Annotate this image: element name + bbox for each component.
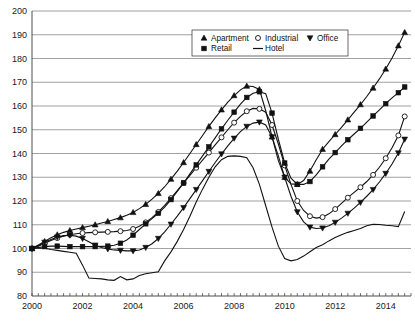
x-axis-label-2010: 2010 xyxy=(275,301,295,311)
data-point-marker xyxy=(308,179,313,184)
chart-legend: ApartmentIndustrialOfficeRetailHotel xyxy=(192,30,348,56)
data-point-marker xyxy=(396,133,401,138)
data-point-marker xyxy=(320,215,325,220)
data-point-marker xyxy=(358,126,363,131)
data-point-marker xyxy=(219,127,224,132)
y-axis-label-150: 150 xyxy=(12,125,27,135)
data-point-marker xyxy=(295,182,300,187)
x-axis-label-2004: 2004 xyxy=(123,301,143,311)
data-point-marker xyxy=(257,106,262,111)
data-point-marker xyxy=(371,172,376,177)
y-axis-label-130: 130 xyxy=(12,172,27,182)
data-point-marker xyxy=(383,66,389,71)
data-point-marker xyxy=(257,89,262,94)
data-point-marker xyxy=(68,244,73,249)
data-point-marker xyxy=(80,244,85,249)
data-point-marker xyxy=(206,150,211,155)
x-axis-label-2006: 2006 xyxy=(174,301,194,311)
data-point-marker xyxy=(232,110,237,115)
data-point-marker xyxy=(244,95,249,100)
data-point-marker xyxy=(345,195,350,200)
series-industrial xyxy=(30,106,408,251)
data-point-marker xyxy=(106,244,111,249)
x-axis-label-2000: 2000 xyxy=(22,301,42,311)
y-axis-label-120: 120 xyxy=(12,196,27,206)
data-point-marker xyxy=(55,244,60,249)
data-point-marker xyxy=(307,214,312,219)
data-point-marker xyxy=(194,163,199,168)
data-point-marker xyxy=(80,231,85,236)
data-point-marker xyxy=(143,222,148,227)
legend-label-retail: Retail xyxy=(211,44,232,53)
data-point-marker xyxy=(395,43,401,48)
y-axis-label-170: 170 xyxy=(12,77,27,87)
data-point-marker xyxy=(270,111,275,116)
line-chart: 8090100110120130140150160170180190200200… xyxy=(0,0,415,322)
data-point-marker xyxy=(371,114,376,119)
legend-label-hotel: Hotel xyxy=(265,44,284,53)
series-line-retail xyxy=(32,87,405,249)
data-point-marker xyxy=(118,229,123,234)
data-point-marker xyxy=(402,29,408,34)
data-point-marker xyxy=(402,137,408,142)
y-axis-label-180: 180 xyxy=(12,54,27,64)
chart-canvas: 8090100110120130140150160170180190200200… xyxy=(0,0,415,322)
data-point-marker xyxy=(282,161,287,166)
series-office xyxy=(29,120,407,254)
y-axis-label-140: 140 xyxy=(12,149,27,159)
series-line-hotel xyxy=(32,156,405,280)
data-point-marker xyxy=(118,241,123,246)
data-point-marker xyxy=(346,137,351,142)
data-point-marker xyxy=(307,168,313,173)
x-axis-label-2002: 2002 xyxy=(73,301,93,311)
data-point-marker xyxy=(383,101,388,106)
data-point-marker xyxy=(93,244,98,249)
legend-marker-square-filled-icon xyxy=(202,46,207,51)
data-point-marker xyxy=(131,227,136,232)
y-axis-label-110: 110 xyxy=(13,220,27,230)
data-point-marker xyxy=(169,197,174,202)
data-point-marker xyxy=(232,120,237,125)
data-point-marker xyxy=(345,211,351,216)
series-hotel xyxy=(32,156,405,280)
data-point-marker xyxy=(80,236,86,241)
data-point-marker xyxy=(219,135,224,140)
data-point-marker xyxy=(402,85,407,90)
legend-label-industrial: Industrial xyxy=(265,34,298,43)
data-point-marker xyxy=(131,233,136,238)
data-point-marker xyxy=(207,145,212,150)
series-apartment xyxy=(29,29,407,250)
legend-label-apartment: Apartment xyxy=(211,34,249,43)
y-axis-label-160: 160 xyxy=(12,101,27,111)
legend-label-office: Office xyxy=(317,34,339,43)
y-axis-label-80: 80 xyxy=(17,291,27,301)
data-point-marker xyxy=(396,90,401,95)
y-axis-label-200: 200 xyxy=(12,6,27,16)
legend-marker-circle-open-icon xyxy=(256,36,261,41)
series-retail xyxy=(30,85,407,251)
x-axis-label-2014: 2014 xyxy=(376,301,396,311)
y-axis-label-190: 190 xyxy=(12,30,27,40)
data-point-marker xyxy=(270,123,275,128)
data-point-marker xyxy=(333,150,338,155)
data-point-marker xyxy=(402,114,407,119)
data-point-marker xyxy=(130,209,136,214)
data-point-marker xyxy=(320,165,325,170)
data-point-marker xyxy=(295,199,300,204)
data-point-marker xyxy=(93,230,98,235)
data-point-marker xyxy=(244,83,250,88)
x-axis-label-2008: 2008 xyxy=(224,301,244,311)
data-point-marker xyxy=(105,229,110,234)
data-point-marker xyxy=(333,207,338,212)
y-axis-label-90: 90 xyxy=(17,267,27,277)
x-axis-label-2012: 2012 xyxy=(325,301,345,311)
data-point-marker xyxy=(156,211,161,216)
data-point-marker xyxy=(181,181,186,186)
data-point-marker xyxy=(244,109,249,114)
data-point-marker xyxy=(358,185,363,190)
data-point-marker xyxy=(383,156,388,161)
series-line-industrial xyxy=(32,108,405,248)
y-axis-label-100: 100 xyxy=(12,244,27,254)
